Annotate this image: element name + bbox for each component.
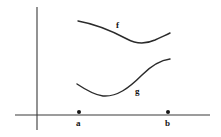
diagram-svg [0,0,221,137]
figure-canvas: f g a b [0,0,221,137]
curves-group [77,21,170,96]
interval-point-a [77,110,81,114]
curve-g [77,59,170,96]
axis-tick-label-b: b [165,119,170,128]
curve-f [78,21,170,43]
interval-endpoint-dots [77,110,170,114]
curve-label-f: f [116,21,119,30]
axes-group [15,7,210,130]
curve-label-g: g [135,87,140,96]
interval-point-b [166,110,170,114]
axis-tick-label-a: a [76,119,81,128]
